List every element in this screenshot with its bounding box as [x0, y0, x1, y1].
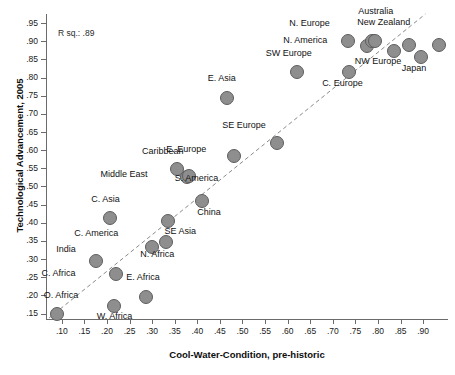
- y-tick: [41, 96, 46, 97]
- data-point-label: SW Europe: [266, 48, 312, 58]
- data-point: [89, 254, 103, 268]
- x-tick: [401, 319, 402, 324]
- data-point-label: N. America: [283, 35, 327, 45]
- y-tick: [41, 186, 46, 187]
- data-point-label: Middle East: [100, 169, 147, 179]
- y-tick: [41, 314, 46, 315]
- data-point: [432, 38, 446, 52]
- y-axis-title: Technological Advancement, 2005: [14, 41, 25, 271]
- y-tick: [41, 205, 46, 206]
- data-point-label: E. Europe: [166, 144, 206, 154]
- data-point: [368, 34, 382, 48]
- x-tick: [84, 319, 85, 324]
- data-point: [195, 194, 209, 208]
- y-tick: [41, 132, 46, 133]
- data-point: [50, 307, 64, 321]
- x-tick: [220, 319, 221, 324]
- data-point: [227, 149, 241, 163]
- data-point: [159, 235, 173, 249]
- x-tick: [423, 319, 424, 324]
- data-point: [341, 34, 355, 48]
- data-point: [270, 136, 284, 150]
- r-squared-annotation: R sq.: .89: [58, 28, 94, 38]
- data-point: [109, 267, 123, 281]
- data-point: [402, 38, 416, 52]
- data-point: [290, 65, 304, 79]
- data-point-label: E. Asia: [208, 73, 236, 83]
- data-point-label: N. Africa: [140, 249, 174, 259]
- x-tick: [288, 319, 289, 324]
- data-point-label: New Zealand: [357, 17, 410, 27]
- x-tick: [310, 319, 311, 324]
- data-point-label: N. Europe: [289, 18, 330, 28]
- y-tick-label: .95: [16, 19, 38, 28]
- data-point-label: C. Europe: [322, 78, 363, 88]
- data-point: [414, 50, 428, 64]
- y-tick: [41, 150, 46, 151]
- scatter-chart: .15.20.25.30.35.40.45.50.55.60.65.70.75.…: [0, 0, 455, 375]
- y-tick: [41, 241, 46, 242]
- y-tick: [41, 59, 46, 60]
- x-tick: [378, 319, 379, 324]
- data-point-label: SE Asia: [164, 226, 196, 236]
- y-tick: [41, 78, 46, 79]
- data-point: [139, 290, 153, 304]
- x-tick: [152, 319, 153, 324]
- y-tick-label: .20: [16, 291, 38, 300]
- x-tick: [265, 319, 266, 324]
- data-point-label: E. Africa: [126, 272, 160, 282]
- y-tick: [41, 259, 46, 260]
- data-point: [103, 211, 117, 225]
- y-tick: [41, 23, 46, 24]
- y-tick: [41, 168, 46, 169]
- y-tick: [41, 41, 46, 42]
- y-tick: [41, 223, 46, 224]
- data-point-label: C. Africa: [41, 268, 75, 278]
- data-point-label: C. Asia: [91, 194, 120, 204]
- data-point-label: C. America: [74, 228, 118, 238]
- y-tick-label: .25: [16, 273, 38, 282]
- data-point-label: India: [56, 244, 76, 254]
- x-tick: [333, 319, 334, 324]
- y-tick-label: .15: [16, 309, 38, 318]
- x-tick: [197, 319, 198, 324]
- data-point-label: SE Europe: [222, 120, 266, 130]
- data-point: [220, 91, 234, 105]
- data-point-label: China: [197, 207, 221, 217]
- x-tick: [62, 319, 63, 324]
- x-axis-title: Cool-Water-Condition, pre-historic: [46, 349, 448, 360]
- data-point-label: NW Europe: [355, 56, 402, 66]
- y-tick: [41, 114, 46, 115]
- data-point: [342, 65, 356, 79]
- x-tick-label: .90: [410, 327, 436, 336]
- data-point-label: O. Africa: [44, 290, 79, 300]
- data-point-label: W. Africa: [97, 311, 133, 321]
- data-point-label: Japan: [402, 63, 427, 73]
- x-tick: [175, 319, 176, 324]
- data-point-label: S. America: [175, 173, 219, 183]
- data-point-label: Australia: [358, 6, 393, 16]
- x-tick: [242, 319, 243, 324]
- x-tick: [355, 319, 356, 324]
